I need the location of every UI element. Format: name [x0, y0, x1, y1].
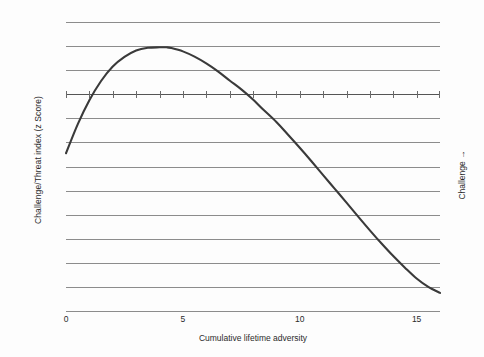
data-curve [66, 47, 440, 293]
x-tick-label: 10 [285, 314, 315, 324]
x-axis-label: Cumulative lifetime adversity [66, 333, 440, 343]
x-tick-label: 5 [168, 314, 198, 324]
right-axis-label: Challenge → [457, 105, 467, 245]
y-axis-label: Challenge/Threat index (z Score) [33, 60, 43, 260]
curve-svg [66, 22, 440, 311]
gridline [66, 311, 440, 312]
x-tick-label: 15 [402, 314, 432, 324]
chart-figure: Challenge/Threat index (z Score) Challen… [0, 0, 484, 357]
plot-area: 0.30.20.10.0–0.1–0.2–0.3–0.4–0.5–0.6–0.7… [66, 22, 440, 311]
x-tick-label: 0 [51, 314, 81, 324]
